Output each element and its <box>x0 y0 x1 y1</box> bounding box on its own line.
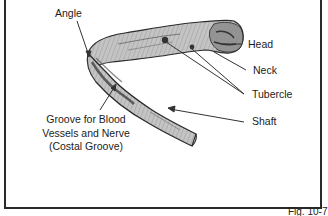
rib-illustration <box>0 0 328 216</box>
leader-shaft <box>170 109 244 122</box>
leader-neck <box>214 52 246 70</box>
figure-caption: Fig. 10-7 <box>288 206 327 216</box>
groove-line-2: Vessels and Nerve <box>40 127 132 141</box>
leader-tubercle-1 <box>192 49 244 94</box>
label-tubercle: Tubercle <box>252 88 292 100</box>
label-shaft: Shaft <box>252 115 277 127</box>
groove-line-1: Groove for Blood <box>40 113 132 127</box>
label-neck: Neck <box>253 64 277 76</box>
rib-head <box>209 22 243 52</box>
label-costal-groove: Groove for Blood Vessels and Nerve (Cost… <box>40 113 132 154</box>
label-head: Head <box>248 38 273 50</box>
label-angle: Angle <box>55 7 82 19</box>
groove-line-3: (Costal Groove) <box>40 140 132 154</box>
